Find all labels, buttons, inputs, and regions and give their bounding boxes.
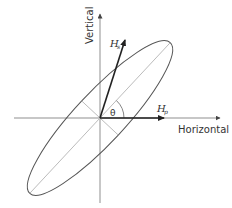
vertical-axis-label: Vertical xyxy=(84,7,95,44)
hs-label: H s xyxy=(109,38,120,50)
horizontal-axis-label: Horizontal xyxy=(178,124,229,135)
diagram-canvas: Vertical Horizontal H s H p θ xyxy=(0,0,232,208)
svg-text:s: s xyxy=(117,43,120,50)
hp-label: H p xyxy=(156,103,168,116)
theta-arc xyxy=(116,101,124,119)
theta-label: θ xyxy=(110,108,116,118)
svg-text:p: p xyxy=(164,108,168,116)
polarization-ellipse-diagram: Vertical Horizontal H s H p θ xyxy=(0,0,232,208)
